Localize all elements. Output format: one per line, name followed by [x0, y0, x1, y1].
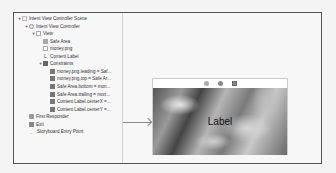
c-icon: [50, 107, 55, 112]
outline-item[interactable]: ▼Constraints: [38, 60, 73, 67]
outline-item[interactable]: Content Label.centerX =...: [45, 98, 111, 105]
outline-item-label: money.png.leading = Saf...: [57, 68, 111, 75]
outline-item-label: Content Label.centerX =...: [57, 98, 111, 105]
exit-icon: [29, 122, 34, 127]
entry-icon: →: [29, 129, 35, 134]
scene-dock: [153, 79, 287, 88]
exit-icon[interactable]: [232, 81, 237, 86]
outline-item[interactable]: money.png.top = Safe Ar...: [45, 75, 111, 82]
safe-icon: [43, 39, 48, 44]
outline-item[interactable]: Content Label.centerY =...: [45, 106, 110, 113]
intent-view-controller-scene[interactable]: Label: [152, 78, 288, 155]
vc-icon: [29, 24, 34, 29]
first-responder-icon[interactable]: [204, 81, 209, 86]
outline-item-label: Content Label: [50, 53, 79, 60]
outline-item[interactable]: ▼Intent View Controller: [24, 23, 80, 30]
outline-item[interactable]: First Responder: [24, 113, 69, 120]
outline-item[interactable]: →Storyboard Entry Point: [24, 128, 83, 135]
outline-item[interactable]: Safe Area.bottom = mon...: [45, 83, 111, 90]
outline-item[interactable]: money.png.leading = Saf...: [45, 68, 111, 75]
c-icon: [50, 84, 55, 89]
lbl-icon: L: [43, 54, 48, 59]
outline-item-label: Storyboard Entry Point: [37, 128, 83, 135]
c-icon: [50, 92, 55, 97]
view-icon: [36, 31, 41, 36]
outline-item-label: Exit: [36, 121, 44, 128]
outline-item-label: Intent View Controller: [36, 23, 80, 30]
view-controller-icon[interactable]: [218, 81, 223, 86]
document-outline: ▼Intent View Controller Scene▼Intent Vie…: [14, 13, 122, 163]
outline-item[interactable]: Exit: [24, 121, 44, 128]
outline-item-label: View: [43, 30, 53, 37]
storyboard-editor: ▼Intent View Controller Scene▼Intent Vie…: [13, 12, 322, 164]
c-icon: [50, 76, 55, 81]
outline-item[interactable]: money.png: [38, 45, 72, 52]
outline-item-label: Safe Area.trailing = mon...: [57, 91, 110, 98]
c-icon: [50, 69, 55, 74]
outline-item[interactable]: Safe Area: [38, 38, 70, 45]
outline-item[interactable]: LContent Label: [38, 53, 79, 60]
outline-item-label: Content Label.centerY =...: [57, 106, 110, 113]
content-label[interactable]: Label: [153, 88, 287, 155]
money-image-view[interactable]: Label: [153, 88, 287, 155]
img-icon: [43, 46, 48, 51]
cons-icon: [43, 61, 48, 66]
outline-item-label: Intent View Controller Scene: [29, 15, 87, 22]
outline-item[interactable]: Safe Area.trailing = mon...: [45, 91, 110, 98]
outline-divider[interactable]: [122, 13, 123, 163]
outline-item[interactable]: ▼Intent View Controller Scene: [17, 15, 87, 22]
outline-item-label: Safe Area: [50, 38, 70, 45]
outline-item-label: Safe Area.bottom = mon...: [57, 83, 111, 90]
outline-item-label: money.png.top = Safe Ar...: [57, 75, 111, 82]
outline-item-label: Constraints: [50, 60, 73, 67]
entry-arrowhead-icon: [144, 118, 152, 126]
outline-item-label: money.png: [50, 45, 72, 52]
fr-icon: [29, 114, 34, 119]
c-icon: [50, 99, 55, 104]
scene-icon: [22, 16, 27, 21]
outline-item[interactable]: ▼View: [31, 30, 53, 37]
outline-item-label: First Responder: [36, 113, 69, 120]
